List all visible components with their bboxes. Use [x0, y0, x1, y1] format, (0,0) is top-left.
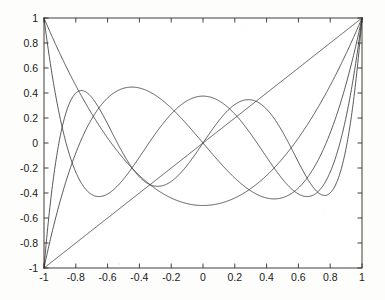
x-tick-label: -1 — [39, 271, 48, 283]
y-tick-label: -0.8 — [20, 237, 38, 249]
y-tick-label: 0 — [32, 137, 38, 149]
y-tick-label: -0.6 — [20, 212, 38, 224]
y-tick-label: 1 — [32, 12, 38, 24]
y-tick-label: -1 — [29, 262, 38, 274]
chart-figure: -1-0.8-0.6-0.4-0.200.20.40.60.81 -1-0.8-… — [0, 0, 385, 300]
legendre-polynomial-plot: -1-0.8-0.6-0.4-0.200.20.40.60.81 -1-0.8-… — [0, 0, 385, 300]
x-tick-label: -0.4 — [130, 271, 148, 283]
x-tick-label: -0.6 — [99, 271, 117, 283]
y-tick-label: 0.2 — [23, 112, 38, 124]
x-tick-label: 0.8 — [323, 271, 338, 283]
x-tick-label: 0.6 — [291, 271, 306, 283]
y-tick-label: 0.4 — [23, 87, 38, 99]
y-tick-label: 0.6 — [23, 62, 38, 74]
x-tick-label: 1 — [359, 271, 365, 283]
x-tick-label: 0.4 — [259, 271, 274, 283]
x-tick-label: -0.2 — [162, 271, 180, 283]
y-tick-label: -0.4 — [20, 187, 38, 199]
x-tick-label: 0.2 — [227, 271, 242, 283]
x-tick-label: 0 — [200, 271, 206, 283]
y-tick-label: -0.2 — [20, 162, 38, 174]
x-tick-label: -0.8 — [67, 271, 85, 283]
y-tick-label: 0.8 — [23, 37, 38, 49]
